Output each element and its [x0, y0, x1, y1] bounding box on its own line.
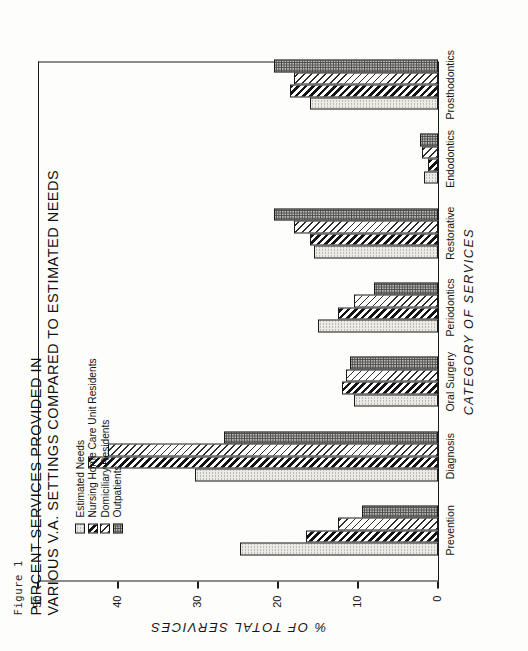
bar	[350, 356, 438, 369]
bar	[420, 133, 438, 146]
axis-tick	[357, 581, 358, 588]
legend-item[interactable]: Nursing Home Care Unit Residents	[87, 358, 100, 533]
bar	[428, 158, 438, 171]
category-axis-title: CATEGORY OF SERVICES	[462, 61, 476, 581]
bar	[424, 171, 438, 184]
legend-item-label: Domiciliary Residents	[100, 419, 111, 517]
bar	[224, 431, 438, 444]
axis-tick	[117, 581, 118, 588]
axis-tick-label: 10	[351, 595, 363, 607]
bar	[346, 369, 438, 382]
bar	[338, 517, 438, 530]
bar	[294, 72, 438, 85]
bar	[310, 97, 438, 110]
category-label: Prevention	[444, 505, 456, 555]
bar	[310, 233, 438, 246]
axis-tick	[37, 581, 38, 588]
category-label: Prosthodontics	[444, 49, 456, 118]
bar	[88, 456, 438, 469]
bar	[314, 245, 438, 258]
category-label: Diagnosis	[444, 433, 456, 479]
category-label: Oral Surgery	[444, 352, 456, 412]
bar	[240, 542, 438, 555]
axis-tick-label: 30	[191, 595, 203, 607]
value-axis-title: % OF TOTAL SERVICES	[88, 620, 388, 635]
legend-swatch-icon	[113, 523, 123, 533]
bar	[274, 59, 438, 72]
legend-item[interactable]: Estimated Needs	[74, 358, 87, 533]
bar	[108, 443, 438, 456]
bar	[422, 146, 438, 159]
axis-tick	[277, 581, 278, 588]
bar	[274, 208, 438, 221]
bar	[306, 530, 438, 543]
bar	[294, 220, 438, 233]
figure-caption: Figure 1	[12, 560, 24, 615]
category-label: Restorative	[444, 206, 456, 259]
category-label: Endodontics	[444, 130, 456, 188]
legend-swatch-icon	[100, 523, 110, 533]
category-label: Periodontics	[444, 278, 456, 336]
legend: Estimated NeedsNursing Home Care Unit Re…	[74, 358, 124, 533]
axis-tick-label: 50	[31, 595, 43, 607]
bar	[362, 505, 438, 518]
bar	[290, 84, 438, 97]
axis-tick-label: 20	[271, 595, 283, 607]
legend-item[interactable]: Outpatients	[112, 358, 125, 533]
axis-tick-label: 40	[111, 595, 123, 607]
legend-item-label: Nursing Home Care Unit Residents	[87, 358, 98, 517]
legend-swatch-icon	[75, 523, 85, 533]
legend-swatch-icon	[88, 523, 98, 533]
bar	[318, 320, 438, 333]
legend-item-label: Estimated Needs	[75, 439, 86, 517]
bar	[338, 307, 438, 320]
bar	[354, 295, 438, 308]
bar	[354, 394, 438, 407]
axis-tick-label: 0	[431, 595, 443, 601]
value-axis-line	[438, 61, 439, 581]
bar	[342, 381, 438, 394]
axis-tick	[437, 581, 438, 588]
legend-item[interactable]: Domiciliary Residents	[99, 358, 112, 533]
axis-tick	[197, 581, 198, 588]
bar	[195, 468, 438, 481]
figure-canvas: Figure 1 PERCENT SERVICES PROVIDED IN VA…	[0, 0, 528, 651]
bar	[374, 282, 438, 295]
legend-item-label: Outpatients	[112, 465, 123, 517]
